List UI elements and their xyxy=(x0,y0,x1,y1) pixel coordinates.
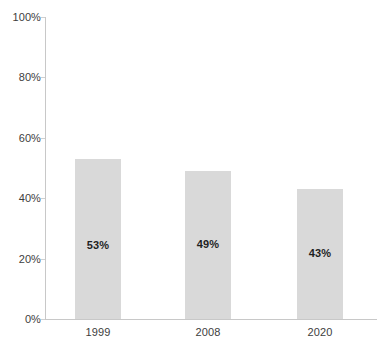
bar-value-1999: 53% xyxy=(75,240,121,251)
plot-area xyxy=(45,17,377,319)
y-tick-label-80: 80% xyxy=(1,72,41,83)
x-tick-label-2020: 2020 xyxy=(280,326,360,338)
y-tick-label-100: 100% xyxy=(1,12,41,23)
y-tick-label-60: 60% xyxy=(1,133,41,144)
x-tick-label-2008: 2008 xyxy=(168,326,248,338)
x-axis-line xyxy=(45,319,377,320)
bar-chart: 100% 80% 60% 40% 20% 0% 53% 49% 43% 1999… xyxy=(0,0,384,351)
x-tick-label-1999: 1999 xyxy=(58,326,138,338)
y-tick-label-40: 40% xyxy=(1,193,41,204)
y-tick-label-0: 0% xyxy=(1,314,41,325)
y-tick-mark-0 xyxy=(41,319,45,320)
y-axis-tick-labels: 100% 80% 60% 40% 20% 0% xyxy=(0,0,41,351)
y-tick-label-20: 20% xyxy=(1,254,41,265)
bar-value-2020: 43% xyxy=(297,248,343,259)
bar-value-2008: 49% xyxy=(185,239,231,250)
